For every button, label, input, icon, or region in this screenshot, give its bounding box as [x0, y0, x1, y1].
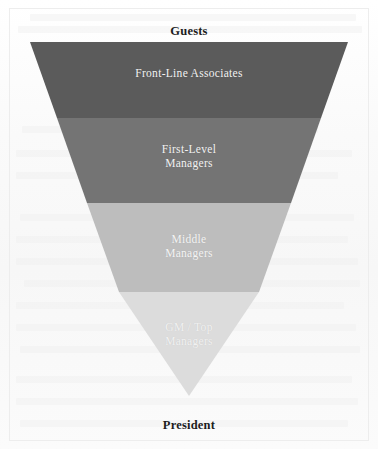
funnel-band-front-line-associates — [30, 42, 348, 118]
funnel-band-first-level-managers — [57, 118, 321, 203]
funnel-band-middle-managers — [87, 203, 291, 292]
funnel-shape — [0, 0, 378, 449]
funnel-diagram: Front-Line Associates First-Level Manage… — [0, 0, 378, 449]
funnel-band-gm-top-managers — [119, 292, 259, 396]
figure-page: Guests Front-Line Associates First-Level… — [0, 0, 378, 449]
funnel-bottom-label: President — [0, 418, 378, 433]
